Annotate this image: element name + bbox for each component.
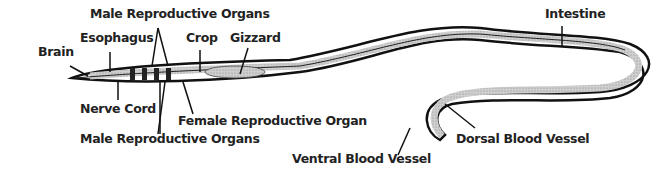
label-female-reproductive-organ: Female Reproductive Organ — [178, 113, 367, 128]
earthworm-diagram — [0, 0, 672, 174]
label-ventral-blood-vessel: Ventral Blood Vessel — [292, 151, 431, 166]
label-male-reproductive-organs-top: Male Reproductive Organs — [90, 6, 270, 21]
label-dorsal-blood-vessel: Dorsal Blood Vessel — [456, 131, 589, 146]
label-intestine: Intestine — [545, 6, 605, 21]
label-nerve-cord: Nerve Cord — [80, 101, 156, 116]
gizzard-shape — [205, 66, 265, 78]
label-male-reproductive-organs-bottom: Male Reproductive Organs — [80, 131, 260, 146]
label-crop: Crop — [186, 30, 218, 45]
label-brain: Brain — [38, 44, 74, 59]
label-gizzard: Gizzard — [230, 30, 281, 45]
label-esophagus: Esophagus — [80, 30, 153, 45]
